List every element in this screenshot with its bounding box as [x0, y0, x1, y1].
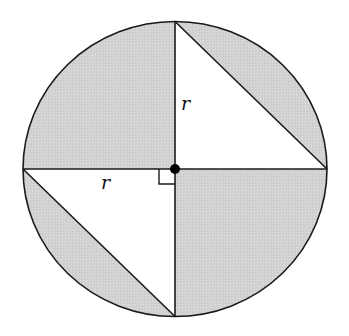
shaded-quarter-lower-right [175, 169, 327, 317]
radius-label-horizontal: r [101, 171, 112, 193]
center-point [170, 164, 180, 174]
shaded-quarter-upper-left [23, 22, 175, 170]
circle-diagram: r r [0, 0, 349, 336]
radius-label-vertical: r [181, 92, 192, 114]
